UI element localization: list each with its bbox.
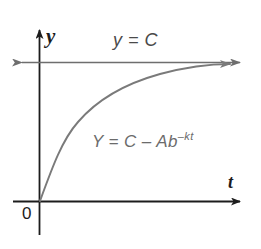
y-axis-label: y	[46, 26, 55, 47]
curve-equation-base: Y = C – Ab	[92, 132, 178, 151]
exponential-growth-graph: y t 0 y = C Y = C – Ab–kt	[0, 0, 261, 249]
asymptote-label: y = C	[113, 31, 158, 49]
curve-equation-label: Y = C – Ab–kt	[92, 133, 194, 150]
curve-equation-exponent: –kt	[178, 130, 194, 142]
origin-label: 0	[22, 205, 31, 222]
t-axis-label: t	[228, 173, 233, 191]
